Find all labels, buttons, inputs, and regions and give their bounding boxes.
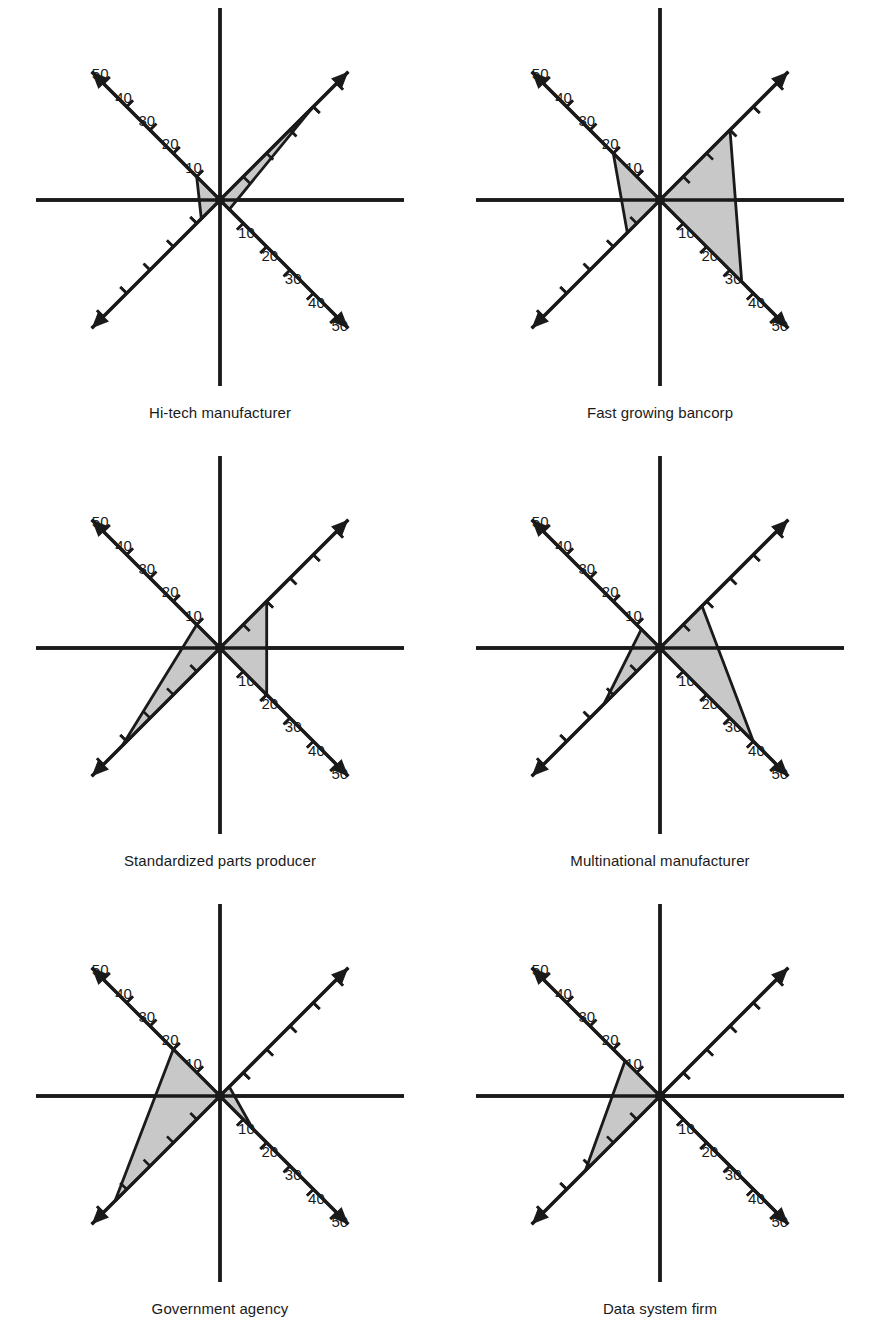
tick-overlay-northeast-20 bbox=[707, 1049, 713, 1055]
tick-overlay-southwest-30 bbox=[584, 264, 590, 270]
radar-chart[interactable]: 10203040501020304050 bbox=[0, 0, 440, 400]
axis-overlay-southeast bbox=[220, 648, 348, 776]
tick-overlay-northeast-40 bbox=[753, 1003, 759, 1009]
tick-overlay-northeast-30 bbox=[730, 578, 736, 584]
tick-overlay-southwest-30 bbox=[584, 712, 590, 718]
data-polygon[interactable] bbox=[613, 130, 741, 282]
radar-chart[interactable]: 10203040501020304050 bbox=[440, 0, 880, 400]
chart-caption: Fast growing bancorp bbox=[440, 404, 880, 421]
axis-overlay-southwest bbox=[532, 200, 660, 328]
tick-overlay-northeast-20 bbox=[707, 601, 713, 607]
axis-overlay-southeast bbox=[220, 1096, 348, 1224]
axis-overlay-southwest bbox=[92, 200, 220, 328]
axis-overlay-northwest bbox=[532, 968, 660, 1096]
axis-overlay-northwest bbox=[92, 968, 220, 1096]
tick-overlay-northeast-30 bbox=[730, 1026, 736, 1032]
tick-overlay-northeast-40 bbox=[313, 555, 319, 561]
axis-overlay-southeast bbox=[220, 200, 348, 328]
chart-cell: 10203040501020304050Standardized parts p… bbox=[0, 448, 440, 896]
axis-overlay-northeast bbox=[660, 968, 788, 1096]
tick-overlay-southwest-20 bbox=[167, 240, 173, 246]
tick-overlay-southwest-20 bbox=[607, 240, 613, 246]
chart-cell: 10203040501020304050Hi-tech manufacturer bbox=[0, 0, 440, 448]
origin-marker bbox=[215, 195, 225, 205]
tick-overlay-southwest-30 bbox=[144, 264, 150, 270]
axis-overlay-southwest bbox=[532, 1096, 660, 1224]
origin-marker bbox=[655, 643, 665, 653]
origin-marker bbox=[215, 643, 225, 653]
axis-overlay-northwest bbox=[532, 520, 660, 648]
tick-overlay-northeast-40 bbox=[313, 107, 319, 113]
origin-marker bbox=[655, 1091, 665, 1101]
data-polygon[interactable] bbox=[115, 1049, 253, 1201]
chart-caption: Government agency bbox=[0, 1300, 440, 1317]
chart-cell: 10203040501020304050Fast growing bancorp bbox=[440, 0, 880, 448]
tick-overlay-northeast-40 bbox=[313, 1003, 319, 1009]
chart-grid: 10203040501020304050Hi-tech manufacturer… bbox=[0, 0, 880, 1344]
chart-caption: Hi-tech manufacturer bbox=[0, 404, 440, 421]
axis-overlay-southwest bbox=[92, 648, 220, 776]
axis-overlay-northeast bbox=[220, 520, 348, 648]
tick-overlay-northeast-20 bbox=[267, 1049, 273, 1055]
tick-overlay-southwest-40 bbox=[560, 287, 566, 293]
axis-overlay-southwest bbox=[532, 648, 660, 776]
chart-caption: Multinational manufacturer bbox=[440, 852, 880, 869]
axis-overlay-northwest bbox=[92, 520, 220, 648]
axis-overlay-northwest bbox=[92, 72, 220, 200]
tick-overlay-northeast-10 bbox=[243, 1073, 249, 1079]
axis-overlay-northeast bbox=[220, 72, 348, 200]
chart-cell: 10203040501020304050Data system firm bbox=[440, 896, 880, 1344]
chart-cell: 10203040501020304050Multinational manufa… bbox=[440, 448, 880, 896]
tick-overlay-southwest-40 bbox=[560, 1183, 566, 1189]
chart-cell: 10203040501020304050Government agency bbox=[0, 896, 440, 1344]
origin-marker bbox=[655, 195, 665, 205]
radar-chart[interactable]: 10203040501020304050 bbox=[440, 896, 880, 1296]
tick-overlay-northeast-10 bbox=[683, 1073, 689, 1079]
radar-chart[interactable]: 10203040501020304050 bbox=[0, 448, 440, 848]
chart-caption: Standardized parts producer bbox=[0, 852, 440, 869]
axis-overlay-northeast bbox=[220, 968, 348, 1096]
tick-overlay-southwest-40 bbox=[120, 287, 126, 293]
tick-overlay-northeast-40 bbox=[753, 555, 759, 561]
radar-chart[interactable]: 10203040501020304050 bbox=[0, 896, 440, 1296]
axis-overlay-northwest bbox=[532, 72, 660, 200]
tick-overlay-southwest-40 bbox=[560, 735, 566, 741]
tick-overlay-northeast-30 bbox=[290, 578, 296, 584]
axis-overlay-northeast bbox=[660, 520, 788, 648]
tick-overlay-northeast-40 bbox=[753, 107, 759, 113]
chart-caption: Data system firm bbox=[440, 1300, 880, 1317]
origin-marker bbox=[215, 1091, 225, 1101]
tick-overlay-southwest-10 bbox=[190, 217, 196, 223]
axis-overlay-southeast bbox=[660, 1096, 788, 1224]
radar-chart[interactable]: 10203040501020304050 bbox=[440, 448, 880, 848]
tick-overlay-northeast-30 bbox=[290, 1026, 296, 1032]
